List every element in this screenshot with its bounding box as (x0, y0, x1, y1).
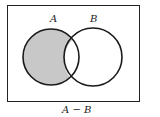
caption: A − B (62, 104, 91, 115)
set-a-label: A (50, 13, 57, 24)
venn-diagram (0, 0, 160, 117)
set-b-label: B (90, 13, 97, 24)
